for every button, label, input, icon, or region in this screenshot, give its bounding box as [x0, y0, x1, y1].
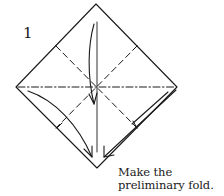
caption-line-2: preliminary fold.	[118, 179, 214, 192]
step-number: 1	[23, 26, 33, 41]
step-caption: Make the preliminary fold.	[118, 166, 214, 192]
right-fold-arrow-inner	[132, 92, 168, 124]
tick-ur	[133, 46, 137, 50]
top-fold-arrow	[89, 24, 94, 104]
right-fold-arrow-outer	[104, 90, 176, 157]
paper-outline	[16, 4, 177, 168]
tick-ul	[56, 46, 60, 50]
left-arrow-tick	[57, 123, 62, 128]
